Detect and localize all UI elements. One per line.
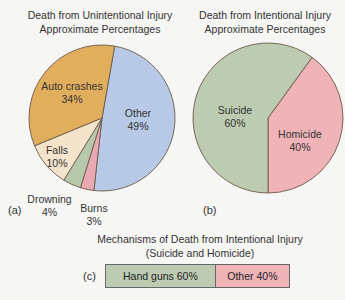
- label-auto-crashes: Auto crashes34%: [32, 80, 112, 106]
- chart-c-title: Mechanisms of Death from Intentional Inj…: [60, 232, 340, 260]
- panel-label-b: (b): [203, 204, 216, 216]
- panel-label-a: (a): [8, 204, 21, 216]
- label-falls: Falls10%: [32, 144, 82, 170]
- stacked-bar-mechanisms: Hand guns 60% Other 40%: [105, 264, 290, 288]
- panel-label-c: (c): [83, 270, 96, 282]
- label-other: Other49%: [108, 107, 168, 133]
- chart-c-title-line1: Mechanisms of Death from Intentional Inj…: [60, 232, 340, 246]
- bar-segment-hand-guns: Hand guns 60%: [106, 265, 216, 287]
- bar-segment-other: Other 40%: [216, 265, 289, 287]
- chart-a-title: Death from Unintentional Injury Approxim…: [10, 8, 190, 36]
- chart-a-title-line2: Approximate Percentages: [10, 22, 190, 36]
- chart-b-title: Death from Intentional Injury Approximat…: [185, 8, 345, 36]
- label-drowning: Drowning4%: [22, 193, 77, 219]
- chart-a-title-line1: Death from Unintentional Injury: [10, 8, 190, 22]
- label-homicide: Homicide40%: [270, 128, 330, 154]
- chart-b-title-line2: Approximate Percentages: [185, 22, 345, 36]
- label-burns: Burns3%: [74, 202, 114, 228]
- chart-b-title-line1: Death from Intentional Injury: [185, 8, 345, 22]
- chart-c-title-line2: (Suicide and Homicide): [60, 246, 340, 260]
- label-suicide: Suicide60%: [210, 104, 260, 130]
